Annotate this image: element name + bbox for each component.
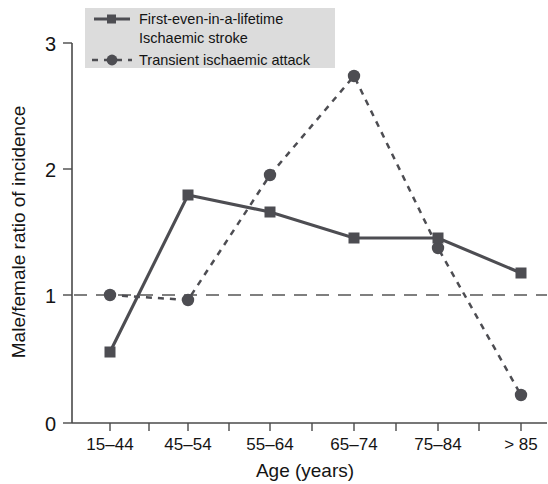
y-axis-title: Male/female ratio of incidence [8, 106, 29, 358]
data-point-tia-55-64 [264, 169, 276, 181]
x-axis-tick-labels: 15–44 45–54 55–64 65–74 75–84 > 85 [86, 435, 537, 454]
y-axis-ticks [63, 43, 72, 423]
data-point-tia-65-74 [348, 70, 360, 82]
legend-label-stroke-line1: First-even-in-a-lifetime [139, 11, 283, 27]
x-tick-label-75-84: 75–84 [414, 435, 461, 454]
x-axis-ticks [110, 423, 521, 431]
chart-axes [63, 43, 547, 431]
data-point-tia-45-54 [182, 294, 194, 306]
legend-label-tia: Transient ischaemic attack [139, 52, 311, 68]
data-point-tia-over-85 [515, 389, 527, 401]
chart-figure: 3 2 1 0 15–44 45–54 55–64 65–74 75–84 > … [0, 0, 548, 484]
y-tick-label-1: 1 [45, 285, 56, 307]
series-first-ever-ischaemic-stroke [105, 190, 527, 358]
data-point-tia-15-44 [104, 289, 116, 301]
data-point-stroke-over-85 [516, 268, 527, 279]
data-point-stroke-15-44 [105, 347, 116, 358]
legend-label-stroke-line2: Ischaemic stroke [139, 30, 248, 46]
x-axis-title: Age (years) [256, 460, 354, 481]
x-tick-label-65-74: 65–74 [330, 435, 377, 454]
data-point-tia-75-84 [432, 242, 444, 254]
x-tick-label-45-54: 45–54 [164, 435, 211, 454]
legend-marker-square-icon [107, 15, 116, 24]
data-point-stroke-75-84 [433, 233, 444, 244]
y-tick-label-2: 2 [45, 159, 56, 181]
legend-marker-circle-icon [107, 55, 118, 66]
y-tick-label-0: 0 [45, 413, 56, 435]
y-axis-tick-labels: 3 2 1 0 [45, 33, 56, 435]
male-female-ratio-line-chart: 3 2 1 0 15–44 45–54 55–64 65–74 75–84 > … [0, 0, 548, 484]
x-tick-label-15-44: 15–44 [86, 435, 133, 454]
series-first-ever-ischaemic-stroke-line [110, 195, 521, 352]
data-point-stroke-45-54 [183, 190, 194, 201]
chart-legend: First-even-in-a-lifetime Ischaemic strok… [85, 8, 335, 68]
data-point-stroke-55-64 [265, 207, 276, 218]
data-point-stroke-65-74 [349, 233, 360, 244]
x-tick-label-over-85: > 85 [504, 435, 538, 454]
y-tick-label-3: 3 [45, 33, 56, 55]
series-transient-ischaemic-attack-line [110, 76, 521, 395]
x-tick-label-55-64: 55–64 [246, 435, 293, 454]
